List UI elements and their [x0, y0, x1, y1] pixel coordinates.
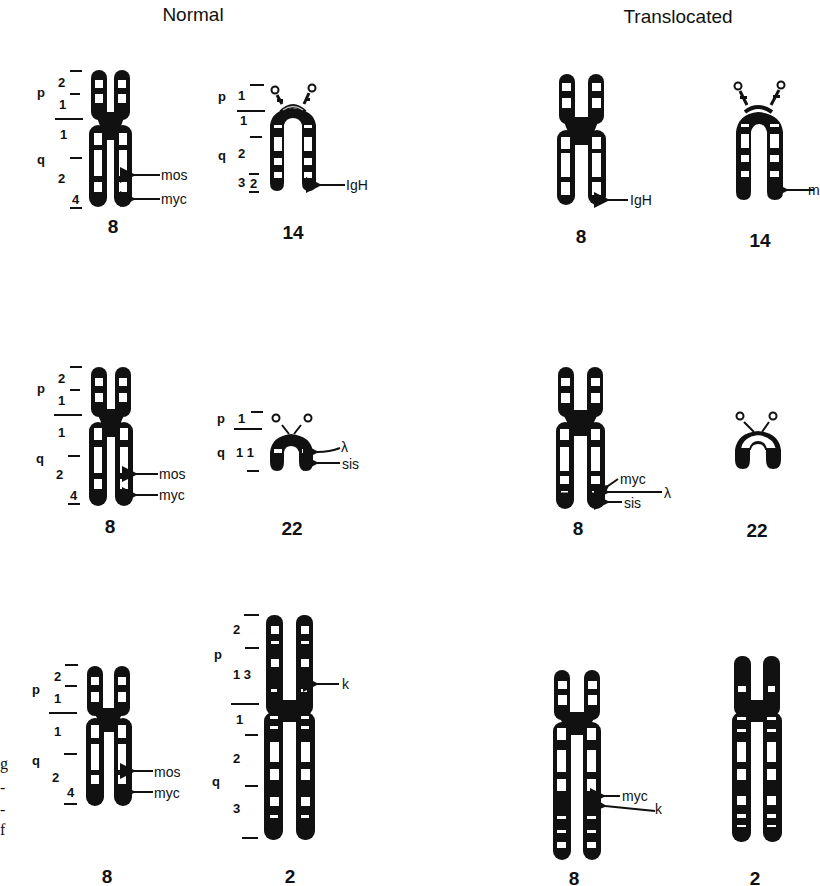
band-tick [249, 173, 259, 175]
band-tick [250, 136, 262, 138]
chromosome-8-normal-row2 [89, 367, 133, 506]
arm-label-p: p [32, 683, 40, 696]
chromosome-number: 8 [102, 866, 113, 886]
chromosome-8-normal-row1 [89, 70, 132, 207]
band-label: 4 [72, 193, 79, 206]
band-label: 2 [58, 172, 65, 185]
chromosome-8-translocated-row2 [556, 367, 605, 509]
gene-label-myc: myc [154, 786, 180, 800]
cropped-text-fragment: f [0, 822, 5, 838]
band-tick [68, 455, 80, 457]
band-tick [65, 685, 77, 687]
gene-label-igh: IgH [630, 193, 652, 207]
band-label: 1 [59, 98, 66, 111]
chromosome-number: 2 [750, 868, 761, 886]
band-tick [250, 84, 264, 86]
arm-label-p: p [214, 648, 222, 661]
band-tick [70, 366, 82, 368]
chromosome-22-normal-row2 [270, 415, 313, 472]
gene-label-mos: mos [161, 168, 187, 182]
chromosome-number: 22 [281, 518, 302, 540]
band-label: 2 [54, 670, 61, 683]
centromere-tick [234, 428, 262, 430]
chromosome-8-translocated-row1 [557, 74, 606, 205]
chromosome-number: 22 [746, 520, 767, 542]
band-label: 1 [236, 713, 243, 726]
gene-label-myc: myc [161, 192, 187, 206]
arm-label-p: p [37, 382, 45, 395]
chromosome-number: 8 [576, 226, 587, 248]
band-label: 4 [70, 489, 77, 502]
arm-label-p: p [218, 90, 226, 103]
chromosome-2-translocated-row3 [732, 656, 782, 842]
chromosome-2-normal-row3 [264, 615, 315, 840]
band-label: 1 [54, 692, 61, 705]
band-label: 1 [238, 89, 245, 102]
gene-label-mos: mos [154, 765, 180, 779]
gene-label-mos: mos [159, 467, 185, 481]
chromosome-number: 2 [285, 866, 296, 886]
gene-label-kappa: k [655, 802, 662, 816]
gene-label-kappa: k [342, 677, 349, 691]
band-label: 2 [233, 752, 240, 765]
band-tick [249, 191, 259, 193]
band-label: 2 [58, 76, 65, 89]
arm-label-q: q [218, 149, 226, 162]
band-label: 3 [233, 802, 240, 815]
arm-label-q: q [37, 153, 45, 166]
gene-label-igh: IgH [346, 178, 368, 192]
band-label: 2 [56, 468, 63, 481]
band-tick [70, 157, 82, 159]
band-label: 1 3 [233, 668, 251, 681]
cropped-text-fragment: - [0, 802, 5, 818]
band-label: 1 [54, 725, 61, 738]
band-tick [70, 93, 80, 95]
band-tick [245, 785, 258, 787]
band-tick [70, 70, 82, 72]
band-tick [245, 647, 259, 649]
chromosome-14-normal-row1 [270, 85, 316, 192]
chromosome-number: 14 [749, 230, 770, 252]
gene-label-sis: sis [624, 496, 641, 510]
gene-label-lambda: λ [341, 440, 348, 454]
centromere-tick [54, 414, 82, 416]
centromere-tick [237, 110, 265, 112]
band-label: 4 [67, 786, 74, 799]
cropped-text-fragment: g [0, 756, 8, 772]
band-tick [247, 470, 259, 472]
arm-label-p: p [217, 412, 225, 425]
band-tick [244, 614, 259, 616]
arm-label-q: q [36, 452, 44, 465]
band-tick [64, 803, 77, 805]
band-label: 2 [233, 623, 240, 636]
chromosome-8-translocated-row3 [553, 670, 601, 860]
chromosome-number: 8 [105, 516, 116, 538]
band-label: 1 [238, 412, 245, 425]
centromere-tick [55, 118, 83, 120]
gene-label-myc: myc [622, 789, 648, 803]
centromere-tick [231, 703, 259, 705]
arm-label-p: p [37, 86, 45, 99]
band-label: 1 1 [236, 446, 254, 459]
band-label: 1 [58, 394, 65, 407]
chromosome-number: 8 [573, 518, 584, 540]
band-label: 2 [52, 771, 59, 784]
band-label: 1 [58, 426, 65, 439]
chromosome-8-normal-row3 [86, 666, 132, 806]
arm-label-q: q [217, 446, 225, 459]
band-tick [68, 503, 80, 505]
band-tick [251, 411, 263, 413]
gene-label-sis: sis [342, 457, 359, 471]
chromosome-22-translocated-row2 [735, 413, 781, 470]
band-label: 2 [58, 372, 65, 385]
band-label: 1 [240, 114, 247, 127]
chromosome-number: 8 [569, 868, 580, 886]
band-tick [242, 837, 258, 839]
band-label: 2 [238, 147, 245, 160]
gene-label-myc: myc [620, 472, 646, 486]
band-tick [65, 664, 78, 666]
arm-label-q: q [212, 775, 220, 788]
band-tick [64, 753, 77, 755]
centromere-tick [49, 712, 77, 714]
